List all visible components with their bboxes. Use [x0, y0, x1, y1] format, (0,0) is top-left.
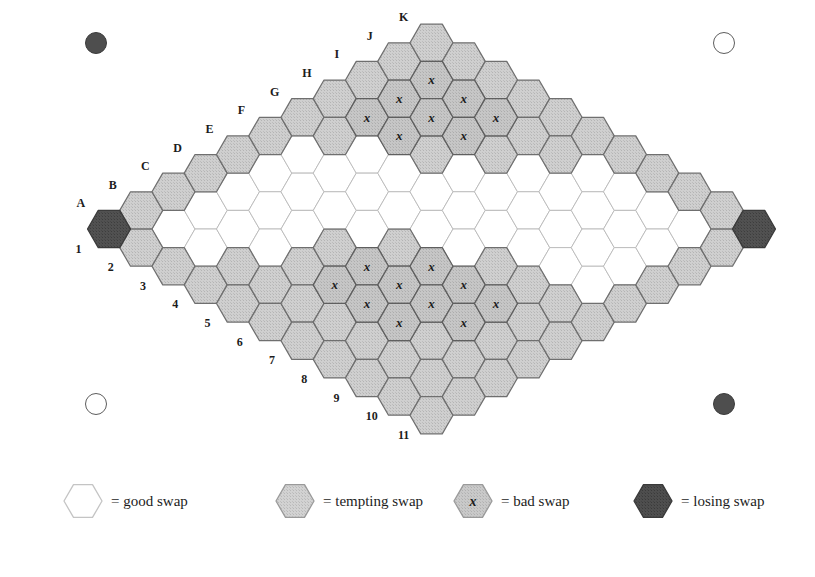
bad-swap-x-mark: x — [460, 315, 468, 330]
column-label-j: J — [367, 30, 373, 42]
bad-swap-x-mark: x — [363, 296, 371, 311]
bad-swap-x-mark: x — [460, 277, 468, 292]
row-label-11: 11 — [398, 429, 409, 441]
legend: = good swap= tempting swapx= bad swap= l… — [0, 478, 815, 538]
bad-swap-x-mark: x — [363, 259, 371, 274]
bad-swap-x-mark: x — [492, 110, 500, 125]
row-label-2: 2 — [108, 261, 114, 273]
bad-swap-x-mark: x — [395, 128, 403, 143]
legend-swatch-losing-icon — [630, 478, 676, 524]
legend-label-tempting: = tempting swap — [323, 493, 423, 510]
column-label-e: E — [206, 123, 214, 135]
legend-label-bad: = bad swap — [501, 493, 569, 510]
column-label-h: H — [302, 67, 311, 79]
legend-item-good: = good swap — [60, 478, 188, 524]
column-label-b: B — [109, 179, 117, 191]
row-label-6: 6 — [237, 336, 243, 348]
corner-marker-top-right — [713, 32, 735, 54]
row-label-10: 10 — [366, 410, 378, 422]
bad-swap-x-mark: x — [427, 72, 435, 87]
svg-text:x: x — [469, 494, 477, 509]
column-label-i: I — [335, 48, 340, 60]
row-label-4: 4 — [172, 298, 178, 310]
bad-swap-x-mark: x — [427, 296, 435, 311]
bad-swap-x-mark: x — [460, 91, 468, 106]
row-label-3: 3 — [140, 280, 146, 292]
legend-label-good: = good swap — [111, 493, 188, 510]
bad-swap-x-mark: x — [395, 315, 403, 330]
corner-marker-bottom-left — [85, 393, 107, 415]
bad-swap-x-mark: x — [395, 277, 403, 292]
column-label-f: F — [238, 104, 245, 116]
bad-swap-x-mark: x — [363, 110, 371, 125]
legend-swatch-bad-icon: x — [450, 478, 496, 524]
column-label-g: G — [270, 86, 279, 98]
column-label-d: D — [173, 142, 182, 154]
bad-swap-x-mark: x — [460, 128, 468, 143]
row-label-8: 8 — [301, 373, 307, 385]
bad-swap-x-mark: x — [427, 259, 435, 274]
bad-swap-x-mark: x — [492, 296, 500, 311]
legend-swatch-good-icon — [60, 478, 106, 524]
legend-swatch-tempting-icon — [272, 478, 318, 524]
row-label-7: 7 — [269, 354, 275, 366]
column-label-c: C — [141, 160, 150, 172]
column-label-k: K — [399, 11, 408, 23]
legend-label-losing: = losing swap — [681, 493, 764, 510]
row-label-9: 9 — [334, 392, 340, 404]
bad-swap-x-mark: x — [395, 91, 403, 106]
legend-item-bad: x= bad swap — [450, 478, 569, 524]
legend-item-losing: = losing swap — [630, 478, 764, 524]
column-label-a: A — [77, 197, 86, 209]
row-label-1: 1 — [76, 243, 82, 255]
figure-canvas: xxxxxxxxxxxxxxxxxx ABCDEFGHIJK1234567891… — [0, 0, 815, 577]
bad-swap-x-mark: x — [331, 277, 339, 292]
corner-marker-top-left — [85, 32, 107, 54]
legend-item-tempting: = tempting swap — [272, 478, 423, 524]
row-label-5: 5 — [205, 317, 211, 329]
bad-swap-x-mark: x — [427, 110, 435, 125]
corner-marker-bottom-right — [713, 393, 735, 415]
